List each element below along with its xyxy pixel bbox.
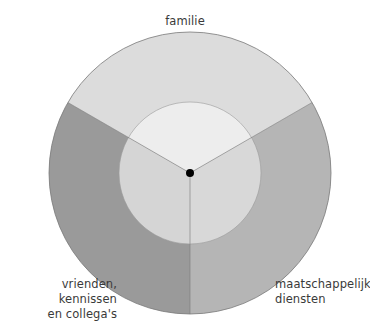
label-familie-text: familie — [0, 14, 370, 29]
label-maatschappelijke-line2: diensten — [275, 292, 370, 307]
label-vrienden-line1: vrienden, kennissen — [0, 277, 117, 307]
label-maatschappelijke-line1: maatschappelijke — [275, 277, 370, 292]
label-familie: familie — [0, 14, 370, 29]
label-maatschappelijke-diensten: maatschappelijke diensten — [275, 277, 370, 307]
center-dot — [186, 169, 194, 177]
label-vrienden-kennissen-collegas: vrienden, kennissen en collega's — [0, 277, 117, 322]
label-vrienden-line2: en collega's — [0, 307, 117, 322]
